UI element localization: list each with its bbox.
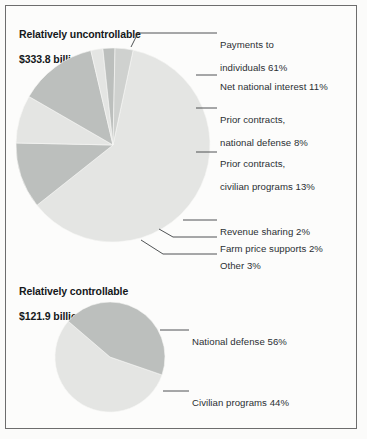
callout-payments-to-individuals: Payments to individuals 61% (220, 27, 287, 73)
callout-line-1: Other 3% (220, 260, 261, 271)
leader-line-farm-price (159, 229, 217, 237)
callout-other: Other 3% (220, 248, 261, 271)
callout-national-defense: National defense 56% (192, 324, 287, 347)
leader-line-other (141, 240, 217, 254)
pie-chart-canvas (0, 0, 367, 439)
pie-controllable (55, 302, 165, 412)
callout-line-1: Prior contracts, (220, 158, 285, 169)
callout-line-1: Payments to (220, 39, 274, 50)
callout-line-1: National defense 56% (192, 336, 287, 347)
callout-prior-contracts-national-defense: Prior contracts, national defense 8% (220, 102, 308, 148)
callout-prior-contracts-civilian-programs: Prior contracts, civilian programs 13% (220, 146, 315, 192)
callout-line-2: civilian programs 13% (220, 181, 315, 192)
pie-uncontrollable (16, 48, 210, 242)
callout-line-1: Net national interest 11% (220, 81, 328, 92)
callout-net-national-interest: Net national interest 11% (220, 69, 328, 92)
chart-figure: Relatively uncontrollable $333.8 billion… (0, 0, 367, 439)
callout-line-1: Prior contracts, (220, 114, 285, 125)
leader-line-payments (131, 33, 217, 47)
callout-civilian-programs: Civilian programs 44% (192, 385, 289, 408)
callout-line-1: Civilian programs 44% (192, 397, 289, 408)
